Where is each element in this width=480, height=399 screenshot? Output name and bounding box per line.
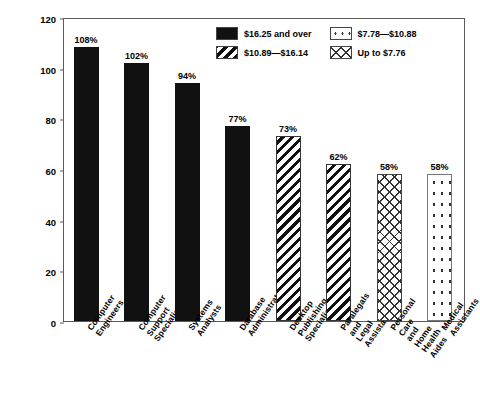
legend-label: $10.89—$16.14 xyxy=(244,48,308,58)
y-tick-label: 20 xyxy=(8,267,64,278)
y-tick-mark xyxy=(60,221,64,222)
bar-value-label: 73% xyxy=(279,124,297,134)
plot-area: Percent Change 020406080100120 108%Compu… xyxy=(63,18,465,322)
bar: 108% xyxy=(74,47,99,321)
bar: 94% xyxy=(175,83,200,321)
legend-swatch-diagonal xyxy=(216,46,238,59)
bar-value-label: 102% xyxy=(125,51,148,61)
legend-item: $10.89—$16.14 xyxy=(216,46,312,59)
y-tick-mark xyxy=(60,272,64,273)
y-tick-label: 100 xyxy=(8,64,64,75)
legend-label: Up to $7.76 xyxy=(358,48,406,58)
y-tick-label: 0 xyxy=(8,318,64,329)
y-tick-mark xyxy=(60,69,64,70)
y-tick-label: 80 xyxy=(8,115,64,126)
y-tick-mark xyxy=(60,120,64,121)
y-tick-label: 120 xyxy=(8,14,64,25)
y-tick-label: 60 xyxy=(8,166,64,177)
y-tick-mark xyxy=(60,171,64,172)
y-tick-label: 40 xyxy=(8,216,64,227)
bar: 58% xyxy=(377,174,402,321)
bar-value-label: 58% xyxy=(380,162,398,172)
bar: 102% xyxy=(124,63,149,321)
bar-value-label: 94% xyxy=(178,71,196,81)
chart-legend: $16.25 and over$7.78—$10.88$10.89—$16.14… xyxy=(216,27,417,59)
legend-label: $7.78—$10.88 xyxy=(358,29,417,39)
bar-value-label: 62% xyxy=(329,152,347,162)
legend-item: $16.25 and over xyxy=(216,27,312,40)
legend-item: Up to $7.76 xyxy=(330,46,417,59)
bar-value-label: 108% xyxy=(74,35,97,45)
legend-item: $7.78—$10.88 xyxy=(330,27,417,40)
bar-value-label: 58% xyxy=(430,162,448,172)
legend-swatch-solid xyxy=(216,27,238,40)
bar-value-label: 77% xyxy=(228,114,246,124)
y-tick-mark xyxy=(60,19,64,20)
bar: 62% xyxy=(326,164,351,321)
y-tick-mark xyxy=(60,323,64,324)
legend-swatch-dotted xyxy=(330,27,352,40)
bar: 77% xyxy=(225,126,250,321)
legend-swatch-crosshatch xyxy=(330,46,352,59)
bar: 58% xyxy=(427,174,452,321)
legend-label: $16.25 and over xyxy=(244,29,312,39)
bar: 73% xyxy=(276,136,301,321)
